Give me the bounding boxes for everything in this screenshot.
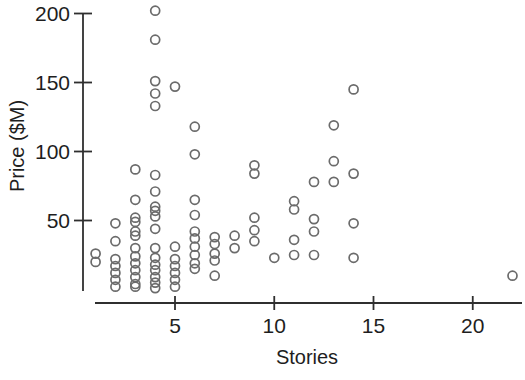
data-point xyxy=(349,219,358,228)
data-point xyxy=(190,264,199,273)
data-point xyxy=(151,89,160,98)
data-point xyxy=(190,150,199,159)
data-point xyxy=(210,271,219,280)
data-point xyxy=(151,102,160,111)
y-axis-title: Price ($M) xyxy=(6,100,29,192)
x-axis-title: Stories xyxy=(276,346,338,369)
data-point xyxy=(310,177,319,186)
scatter-figure: Price ($M) Stories 501001502005101520 xyxy=(0,0,525,380)
data-point xyxy=(508,271,517,280)
data-point xyxy=(290,251,299,260)
data-point xyxy=(310,227,319,236)
x-tick-label: 10 xyxy=(263,315,286,337)
data-point xyxy=(111,237,120,246)
data-point xyxy=(349,253,358,262)
data-point xyxy=(151,212,160,221)
data-point xyxy=(131,195,140,204)
data-point xyxy=(329,121,338,130)
data-point xyxy=(151,224,160,233)
data-point xyxy=(190,122,199,131)
data-point xyxy=(151,6,160,15)
data-point xyxy=(329,177,338,186)
data-point xyxy=(349,85,358,94)
data-point xyxy=(131,165,140,174)
data-point xyxy=(329,157,338,166)
y-tick-label: 50 xyxy=(47,210,70,232)
data-point xyxy=(151,171,160,180)
data-point xyxy=(349,169,358,178)
y-tick-label: 200 xyxy=(35,3,70,25)
data-point xyxy=(190,195,199,204)
data-point xyxy=(171,82,180,91)
data-point xyxy=(230,231,239,240)
data-point xyxy=(230,244,239,253)
data-point xyxy=(151,284,160,293)
data-point xyxy=(310,215,319,224)
data-point xyxy=(250,226,259,235)
data-point xyxy=(151,187,160,196)
data-point xyxy=(151,244,160,253)
x-tick-label: 15 xyxy=(362,315,385,337)
data-point xyxy=(270,253,279,262)
x-tick-label: 5 xyxy=(169,315,181,337)
data-point xyxy=(190,211,199,220)
data-point xyxy=(310,251,319,260)
data-point xyxy=(111,219,120,228)
y-tick-label: 100 xyxy=(35,141,70,163)
y-tick-label: 150 xyxy=(35,72,70,94)
data-point xyxy=(250,237,259,246)
data-point xyxy=(151,77,160,86)
data-point xyxy=(250,213,259,222)
data-point xyxy=(151,35,160,44)
data-point xyxy=(290,235,299,244)
x-tick-label: 20 xyxy=(461,315,484,337)
data-point xyxy=(171,242,180,251)
